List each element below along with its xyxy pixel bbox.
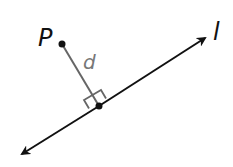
foot-point: [96, 103, 103, 110]
label-p: P: [38, 24, 53, 52]
point-p: [59, 41, 66, 48]
label-d: d: [83, 50, 96, 74]
label-l: l: [213, 18, 220, 46]
line-l: [99, 38, 205, 106]
line-l-lower: [22, 106, 99, 154]
diagram-canvas: P l d: [0, 0, 233, 167]
